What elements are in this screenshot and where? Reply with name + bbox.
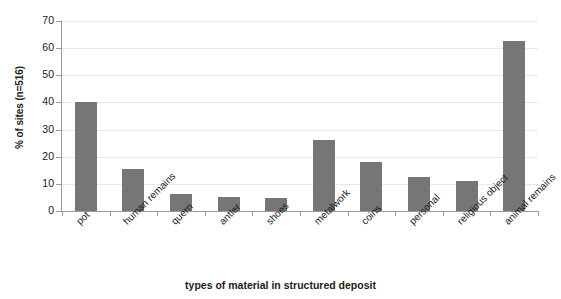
x-axis-title: types of material in structured deposit (0, 279, 561, 291)
x-axis-tick-mark (443, 211, 444, 216)
x-axis-tick-mark (62, 211, 63, 216)
y-axis-title-text: % of sites (n=516) (14, 66, 25, 149)
x-axis-tick-mark (395, 211, 396, 216)
y-axis-tick-mark (56, 211, 61, 212)
bar (503, 41, 525, 211)
gridline (62, 21, 538, 22)
y-axis-tick-label: 60 (28, 42, 54, 53)
y-axis-tick-mark (56, 75, 61, 76)
x-axis-tick-mark (205, 211, 206, 216)
bar (75, 102, 97, 211)
y-axis-tick-labels: 010203040506070 (24, 0, 54, 299)
gridline (62, 157, 538, 158)
x-axis-tick-mark (157, 211, 158, 216)
x-axis-tick-mark (490, 211, 491, 216)
y-axis-tick-mark (56, 21, 61, 22)
gridline (62, 75, 538, 76)
y-axis-tick-mark (56, 130, 61, 131)
gridline (62, 102, 538, 103)
y-axis-tick-label: 30 (28, 124, 54, 135)
y-axis-tick-mark (56, 48, 61, 49)
bar (360, 162, 382, 211)
y-axis-tick-label: 20 (28, 151, 54, 162)
y-axis-tick-mark (56, 102, 61, 103)
y-axis-tick-label: 50 (28, 69, 54, 80)
x-axis-tick-mark (538, 211, 539, 216)
y-axis-tick-label: 70 (28, 15, 54, 26)
y-axis-tick-label: 0 (28, 205, 54, 216)
x-axis-tick-mark (110, 211, 111, 216)
x-axis-tick-mark (300, 211, 301, 216)
y-axis-tick-label: 10 (28, 178, 54, 189)
plot-area (62, 21, 538, 211)
x-axis-tick-mark (348, 211, 349, 216)
gridline (62, 48, 538, 49)
y-axis-tick-mark (56, 184, 61, 185)
bar-chart: % of sites (n=516) 010203040506070 pothu… (0, 0, 561, 299)
y-axis-tick-mark (56, 157, 61, 158)
gridline (62, 130, 538, 131)
x-axis-tick-mark (252, 211, 253, 216)
y-axis-tick-label: 40 (28, 96, 54, 107)
